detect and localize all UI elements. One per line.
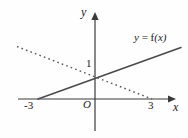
y-tick-label-1: 1 (86, 58, 92, 69)
function-annotation-arg: (x) (154, 31, 166, 43)
function-annotation-lhs: y (134, 31, 139, 43)
function-annotation-equals: = (142, 31, 148, 43)
origin-label: O (83, 99, 91, 110)
series-line-solid (38, 48, 181, 100)
function-graph-figure: y x O 1 -3 3 y = f(x) (0, 0, 188, 138)
series-line-dashed (17, 47, 152, 100)
x-axis-label: x (173, 101, 178, 113)
x-tick-label-3: 3 (148, 100, 154, 111)
y-axis-arrow-icon (91, 12, 98, 20)
function-annotation: y = f(x) (134, 32, 167, 43)
y-axis-label: y (81, 6, 86, 18)
x-tick-label-negative-3: -3 (24, 100, 33, 111)
coordinate-plot (0, 0, 188, 138)
